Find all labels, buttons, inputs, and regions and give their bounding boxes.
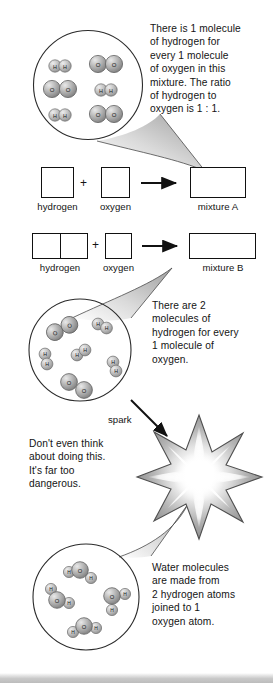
- svg-text:O: O: [110, 594, 115, 600]
- svg-text:H: H: [67, 601, 71, 606]
- svg-text:H: H: [67, 570, 71, 575]
- molecule-h2o: H H O: [63, 562, 96, 584]
- svg-text:O: O: [82, 624, 87, 630]
- svg-text:H: H: [110, 608, 114, 613]
- svg-text:O: O: [55, 598, 60, 604]
- molecule-h2o: H H O: [67, 618, 101, 638]
- svg-text:H: H: [49, 587, 53, 592]
- molecule-h2o: H H O: [45, 583, 74, 608]
- callout-water-text: Water molecules are made from 2 hydrogen…: [152, 561, 270, 628]
- svg-text:O: O: [78, 568, 83, 574]
- svg-text:H: H: [123, 592, 127, 597]
- molecule-h2o: H H O: [104, 588, 131, 616]
- svg-text:H: H: [71, 630, 75, 635]
- bottom-bar: [0, 673, 273, 683]
- svg-text:H: H: [94, 626, 98, 631]
- svg-text:H: H: [89, 576, 93, 581]
- diagram-canvas: H H O O O O H H H H: [0, 0, 273, 683]
